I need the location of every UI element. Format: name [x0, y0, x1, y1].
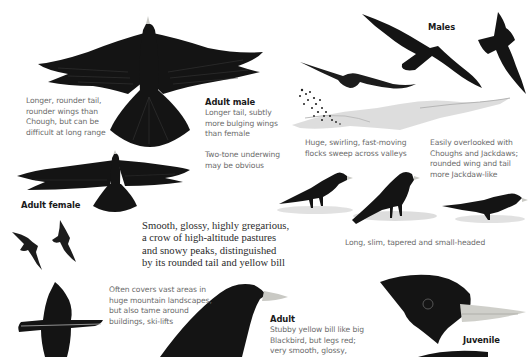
perched-bird-3-illustration [440, 190, 530, 225]
caption-flocks: Huge, swirling, fast-moving flocks sweep… [305, 138, 425, 159]
caption-adult-male: Longer tail, subtly more bulging wings t… [205, 108, 305, 140]
juvenile-head-illustration [378, 272, 530, 357]
caption-overlooked: Easily overlooked with Choughs and Jackd… [430, 138, 530, 180]
label-adult: Adult [270, 314, 295, 324]
caption-tail-wings: Longer, rounder tail, rounder wings than… [26, 96, 141, 138]
bird-from-behind-illustration [15, 280, 105, 357]
label-juvenile: Juvenile [463, 335, 500, 345]
flock-illustration [296, 86, 356, 130]
small-flight-pair-illustration [8, 218, 78, 273]
label-adult-male: Adult male [205, 97, 255, 107]
summary-text: Smooth, glossy, highly gregarious, a cro… [142, 220, 332, 270]
perched-bird-2-illustration [350, 170, 430, 225]
perched-bird-1-illustration [275, 168, 355, 213]
caption-two-tone-underwing: Two-tone underwing may be obvious [205, 150, 305, 171]
field-guide-page: Longer, rounder tail, rounder wings than… [0, 0, 530, 357]
caption-adult: Stubby yellow bill like big Blackbird, b… [270, 325, 380, 357]
caption-vast-areas: Often covers vast areas in huge mountain… [109, 285, 234, 327]
label-males: Males [428, 22, 455, 32]
label-adult-female: Adult female [21, 200, 80, 210]
caption-long-slim: Long, slim, tapered and small-headed [345, 238, 525, 249]
